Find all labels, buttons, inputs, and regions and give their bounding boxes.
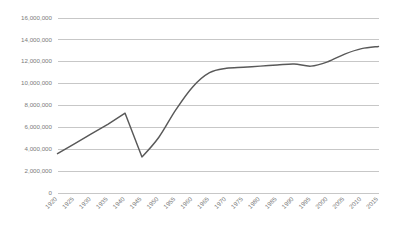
x-axis-tick-label: 1940	[111, 195, 126, 210]
x-axis-tick-label: 1990	[280, 195, 295, 210]
x-axis-tick-label: 1950	[145, 195, 160, 210]
x-axis-tick-label: 1985	[263, 195, 278, 210]
x-axis-tick-label: 1920	[44, 195, 59, 210]
gridlines	[58, 18, 379, 193]
x-axis-tick-labels: 1920192519301935194019451950195519601965…	[44, 195, 380, 210]
x-axis-tick-label: 1980	[246, 195, 261, 210]
x-axis-tick-label: 1960	[179, 195, 194, 210]
y-axis-tick-label: 16,000,000	[21, 14, 53, 21]
y-axis-tick-label: 12,000,000	[21, 57, 53, 64]
x-axis-tick-label: 1945	[128, 195, 143, 210]
y-axis-tick-label: 0	[49, 189, 53, 196]
x-axis-tick-label: 2000	[314, 195, 329, 210]
x-axis-tick-label: 1930	[77, 195, 92, 210]
series-line	[58, 46, 379, 156]
x-axis-tick-label: 2015	[365, 195, 380, 210]
x-axis-tick-label: 1965	[196, 195, 211, 210]
data-series	[58, 46, 379, 156]
y-axis-tick-label: 2,000,000	[24, 167, 52, 174]
y-axis-tick-label: 14,000,000	[21, 36, 53, 43]
y-axis-tick-label: 4,000,000	[24, 145, 52, 152]
y-axis-tick-label: 10,000,000	[21, 79, 53, 86]
x-axis-tick-label: 2010	[348, 195, 363, 210]
x-axis-tick-label: 1995	[297, 195, 312, 210]
x-axis-tick-label: 1970	[212, 195, 227, 210]
x-axis-tick-label: 1925	[60, 195, 75, 210]
x-axis-tick-label: 1975	[229, 195, 244, 210]
x-axis-tick-label: 1955	[162, 195, 177, 210]
y-axis-tick-label: 8,000,000	[24, 101, 52, 108]
y-axis-tick-label: 6,000,000	[24, 123, 52, 130]
x-axis-tick-label: 2005	[331, 195, 346, 210]
line-chart: 02,000,0004,000,0006,000,0008,000,00010,…	[0, 0, 393, 226]
y-axis-tick-labels: 02,000,0004,000,0006,000,0008,000,00010,…	[21, 14, 53, 196]
x-axis-tick-label: 1935	[94, 195, 109, 210]
chart-canvas: 02,000,0004,000,0006,000,0008,000,00010,…	[0, 0, 393, 226]
